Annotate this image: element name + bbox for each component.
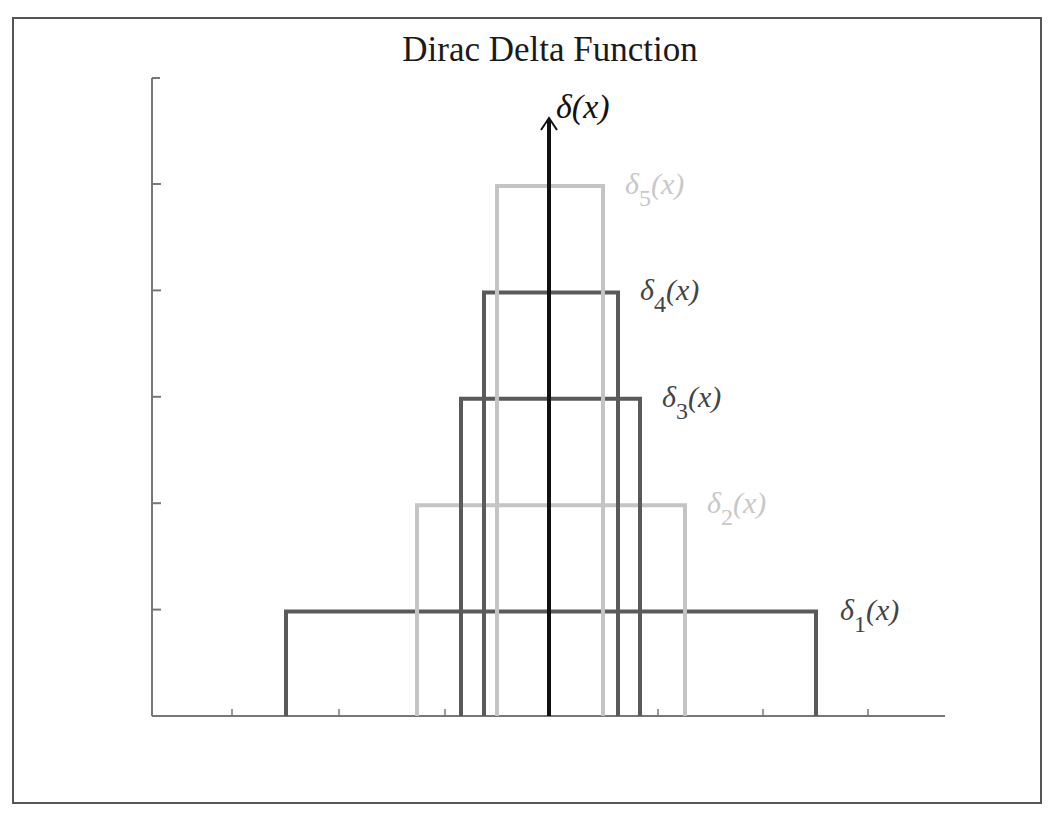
y-axis-ticks: [152, 184, 161, 610]
delta-arrow: [541, 118, 557, 716]
pulse-labels: δ1(x)δ2(x)δ3(x)δ4(x)δ5(x): [625, 167, 899, 637]
pulse-label-5: δ5(x): [625, 167, 684, 211]
pulse-label-4: δ4(x): [640, 273, 699, 317]
pulse-label-1: δ1(x): [840, 593, 899, 637]
pulse-label-3: δ3(x): [662, 380, 721, 424]
plot-area: δ(x) δ1(x)δ2(x)δ3(x)δ4(x)δ5(x): [0, 0, 1060, 815]
delta-axis-label: δ(x): [556, 88, 610, 126]
pulse-label-2: δ2(x): [707, 486, 766, 530]
